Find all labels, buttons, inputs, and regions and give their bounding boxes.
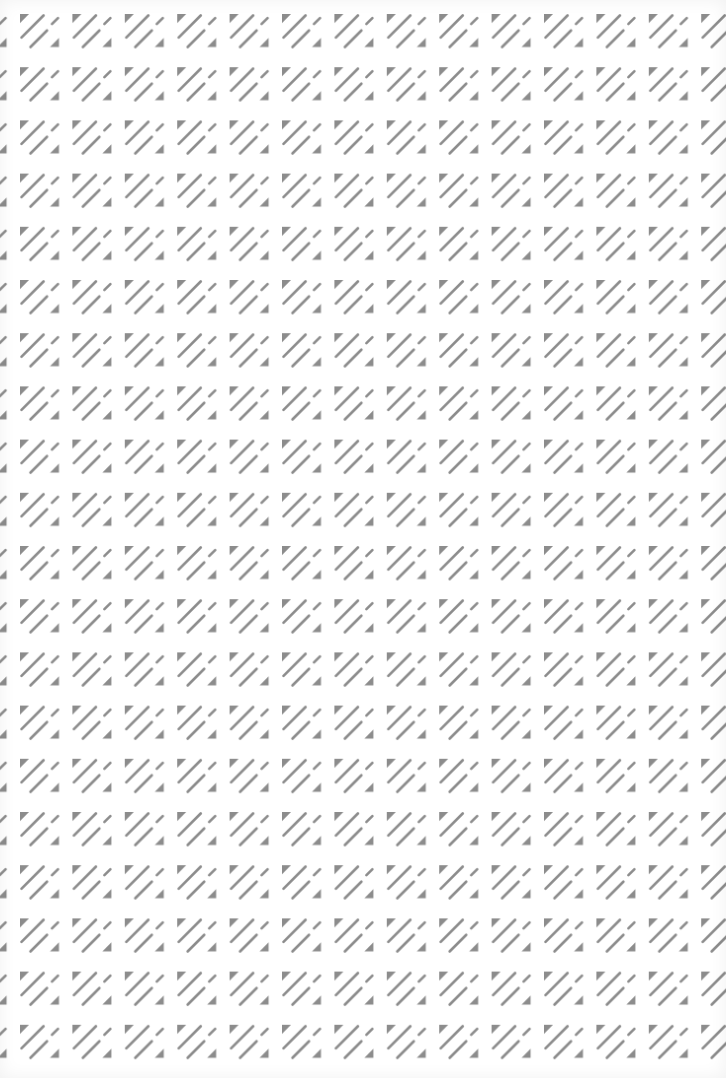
geometric-pattern (0, 0, 726, 1078)
pattern-canvas (0, 0, 726, 1078)
